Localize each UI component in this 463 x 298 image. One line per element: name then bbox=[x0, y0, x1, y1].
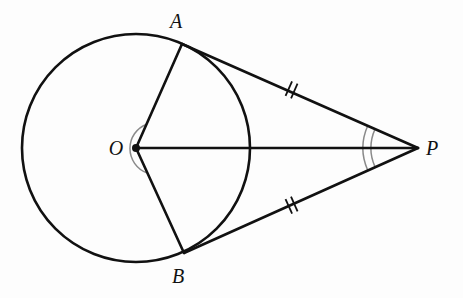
point-label-A: A bbox=[168, 10, 183, 32]
geometry-figure: A B O P bbox=[0, 0, 463, 298]
center-point-dot bbox=[132, 144, 140, 152]
point-label-P: P bbox=[425, 137, 438, 159]
point-label-B: B bbox=[172, 265, 184, 287]
point-label-O: O bbox=[109, 137, 123, 159]
